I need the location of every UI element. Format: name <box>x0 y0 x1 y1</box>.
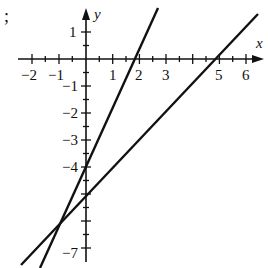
x-tick-label: 5 <box>215 67 223 83</box>
y-tick-label: −7 <box>62 245 78 261</box>
x-tick-label: 3 <box>162 67 170 83</box>
x-axis-arrow-icon <box>252 55 264 63</box>
x-axis-label: x <box>255 35 263 51</box>
y-tick-label: −3 <box>62 132 78 148</box>
y-tick-label: 1 <box>69 24 77 40</box>
x-axis: x −2 −1 1 2 3 5 6 <box>18 35 264 83</box>
prefix-semicolon: ; <box>4 6 9 26</box>
x-tick-label: 1 <box>109 67 117 83</box>
x-tick-label: 6 <box>242 67 250 83</box>
y-tick-label: −4 <box>62 159 78 175</box>
y-axis-label: y <box>92 6 101 22</box>
x-tick-label: 2 <box>135 67 143 83</box>
y-axis-arrow-icon <box>82 8 90 20</box>
y-tick-label: −2 <box>62 105 78 121</box>
y-axis: y 1 −1 −2 −3 −4 −7 <box>62 6 101 262</box>
coordinate-plane: ; x −2 −1 1 2 3 5 6 <box>0 0 268 268</box>
y-tick-label: −1 <box>62 78 78 94</box>
x-tick-label: −2 <box>21 67 37 83</box>
